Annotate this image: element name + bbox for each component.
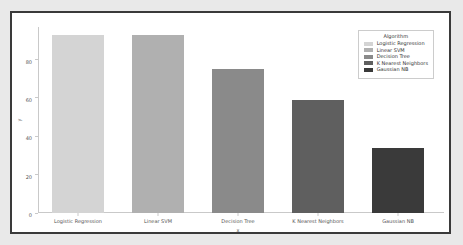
legend-swatch-icon <box>364 48 373 52</box>
x-tick-mark <box>398 213 399 216</box>
chart-legend: Algorithm Logistic RegressionLinear SVMD… <box>358 30 434 79</box>
bar[interactable] <box>372 148 423 213</box>
x-tick-label: K Nearest Neighbors <box>278 213 358 224</box>
bar-slot <box>38 27 118 213</box>
chart-axes: 020406080 y Logistic RegressionLinear SV… <box>38 27 438 213</box>
x-axis-title: x <box>38 228 438 233</box>
y-tick-label: 80 <box>26 60 32 65</box>
x-tick-mark <box>78 213 79 216</box>
legend-entry[interactable]: Decision Tree <box>364 54 428 59</box>
legend-label: Gaussian NB <box>377 67 409 72</box>
bar[interactable] <box>212 69 263 213</box>
legend-entry[interactable]: Logistic Regression <box>364 41 428 46</box>
x-tick-label: Gaussian NB <box>358 213 438 224</box>
bar[interactable] <box>292 100 343 213</box>
legend-label: Decision Tree <box>377 54 410 59</box>
bar[interactable] <box>52 35 103 213</box>
x-tick-mark <box>238 213 239 216</box>
x-tick-label: Linear SVM <box>118 213 198 224</box>
bar[interactable] <box>132 35 183 213</box>
chart-figure: 020406080 y Logistic RegressionLinear SV… <box>10 11 451 234</box>
bar-slot <box>278 27 358 213</box>
legend-swatch-icon <box>364 42 373 46</box>
legend-entry[interactable]: Linear SVM <box>364 48 428 53</box>
x-tick-mark <box>158 213 159 216</box>
x-tick-label: Logistic Regression <box>38 213 118 224</box>
y-tick-label: 60 <box>26 98 32 103</box>
legend-entries: Logistic RegressionLinear SVMDecision Tr… <box>364 41 428 72</box>
y-axis-title: y <box>16 119 22 122</box>
legend-swatch-icon <box>364 61 373 65</box>
y-tick-label: 20 <box>26 175 32 180</box>
bar-slot <box>198 27 278 213</box>
legend-entry[interactable]: Gaussian NB <box>364 67 428 72</box>
y-tick-label: 0 <box>29 213 32 218</box>
x-tick-label: Decision Tree <box>198 213 278 224</box>
bar-slot <box>118 27 198 213</box>
x-tick-mark <box>318 213 319 216</box>
legend-swatch-icon <box>364 55 373 59</box>
legend-label: K Nearest Neighbors <box>377 61 428 66</box>
legend-title: Algorithm <box>364 34 428 39</box>
x-axis-tick-labels: Logistic RegressionLinear SVMDecision Tr… <box>38 213 438 224</box>
y-tick-label: 40 <box>26 136 32 141</box>
legend-swatch-icon <box>364 68 373 72</box>
legend-entry[interactable]: K Nearest Neighbors <box>364 61 428 66</box>
legend-label: Linear SVM <box>377 48 405 53</box>
legend-label: Logistic Regression <box>377 41 425 46</box>
